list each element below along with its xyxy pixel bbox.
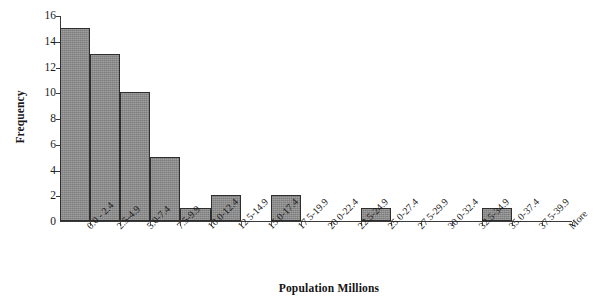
- x-axis-tick-label: 15.0-17.4: [266, 224, 273, 231]
- y-axis-tick-label: 4: [28, 165, 56, 177]
- plot-area: [60, 16, 572, 222]
- x-axis-tick-labels: 0.0 - 2.42.5-4.95.0-7.47.5-9.910.0-12.41…: [60, 224, 590, 282]
- y-axis-tick-label: 16: [28, 10, 56, 22]
- bar: [90, 54, 120, 221]
- bar: [60, 28, 90, 221]
- x-axis-tick-label: 17.5-19.9: [296, 224, 303, 231]
- x-axis-title: Population Millions: [0, 282, 598, 294]
- x-axis-tick-label: 25.0-27.4: [386, 224, 393, 231]
- y-axis-title-text: Frequency: [14, 90, 26, 143]
- y-axis-tick-label: 6: [28, 139, 56, 151]
- y-axis-tick-label: 12: [28, 62, 56, 74]
- histogram-chart: Frequency 0246810121416 0.0 - 2.42.5-4.9…: [0, 0, 598, 306]
- x-axis-tick-label: 37.5-39.9: [537, 224, 544, 231]
- x-axis-line: [60, 221, 572, 222]
- bar: [120, 92, 150, 221]
- x-axis-tick-label: 12.5-14.9: [236, 224, 243, 231]
- x-axis-tick-label: 10.0-12.4: [206, 224, 213, 231]
- x-axis-tick-label: 35.0-37.4: [507, 224, 514, 231]
- x-axis-tick-label: 7.5-9.9: [175, 224, 182, 231]
- x-axis-tick-label: More: [567, 224, 574, 231]
- y-axis-tick-labels: 0246810121416: [28, 8, 56, 228]
- y-axis-tick-label: 8: [28, 113, 56, 125]
- x-axis-tick-label: 32.5-34.9: [477, 224, 484, 231]
- x-axis-tick-label: 27.5-29.9: [416, 224, 423, 231]
- x-axis-tick-label: 0.0 - 2.4: [85, 224, 92, 231]
- y-axis-tick-label: 0: [28, 216, 56, 228]
- x-axis-tick-label: 30.0-32.4: [446, 224, 453, 231]
- y-axis-tick-mark: [56, 16, 60, 17]
- y-axis-tick-label: 14: [28, 36, 56, 48]
- x-axis-tick-label: 22.5-24.9: [356, 224, 363, 231]
- x-axis-tick-label: 5.0-7.4: [145, 224, 152, 231]
- y-axis-tick-label: 10: [28, 88, 56, 100]
- y-axis-tick-label: 2: [28, 191, 56, 203]
- x-axis-tick-label: 2.5-4.9: [115, 224, 122, 231]
- x-axis-tick-label: 20.0-22.4: [326, 224, 333, 231]
